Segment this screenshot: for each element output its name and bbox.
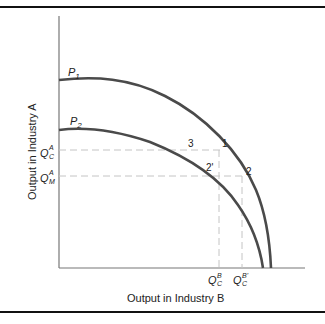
ppf-diagram: P1 P2 Q A C Q A M Q B C Q B' C 1 2 3 2' … [0, 0, 325, 324]
svg-text:Q: Q [40, 172, 49, 184]
guide-lines [59, 150, 242, 268]
svg-text:Q: Q [233, 274, 242, 286]
y-tick-qca: Q A C [40, 144, 55, 160]
x-tick-qcb: Q B C [208, 272, 223, 287]
x-tick-qcb-prime: Q B' C [233, 272, 249, 287]
point-2-prime: 2' [206, 162, 214, 173]
y-tick-qma: Q A M [40, 169, 55, 185]
x-axis-label: Output in Industry B [127, 292, 224, 304]
svg-text:A: A [48, 144, 54, 151]
y-axis-label: Output in Industry A [26, 103, 38, 200]
svg-text:C: C [242, 280, 248, 287]
svg-text:C: C [217, 280, 223, 287]
svg-text:Q: Q [208, 274, 217, 286]
point-3: 3 [188, 138, 194, 149]
svg-text:B: B [217, 272, 222, 279]
svg-text:M: M [49, 178, 55, 185]
svg-text:B': B' [242, 272, 249, 279]
curve-p1 [59, 78, 271, 268]
point-1: 1 [222, 138, 228, 149]
svg-text:C: C [49, 153, 55, 160]
point-2: 2 [246, 166, 252, 177]
svg-text:A: A [48, 169, 54, 176]
svg-text:Q: Q [40, 147, 49, 159]
